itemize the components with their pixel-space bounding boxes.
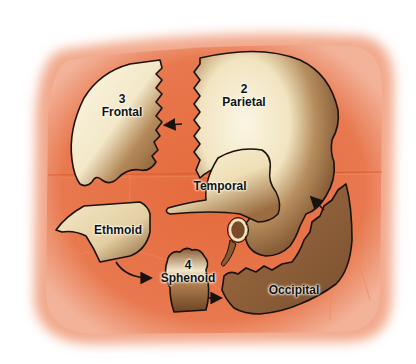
parietal-name: Parietal [214,96,274,109]
temporal-name: Temporal [185,180,255,193]
label-parietal: 2 Parietal [214,83,274,109]
label-occipital: Occipital [259,284,329,297]
label-frontal: 3 Frontal [97,93,147,119]
sphenoid-name: Sphenoid [156,272,220,285]
label-temporal: Temporal [185,180,255,193]
ethmoid-name: Ethmoid [88,224,148,237]
frontal-name: Frontal [97,106,147,119]
arrow-parietal-to-frontal [166,124,182,125]
label-sphenoid: 4 Sphenoid [156,259,220,285]
occipital-name: Occipital [259,284,329,297]
label-ethmoid: Ethmoid [88,224,148,237]
